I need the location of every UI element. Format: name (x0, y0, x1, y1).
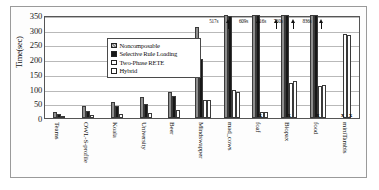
bar (347, 35, 351, 118)
bar (322, 85, 326, 118)
bar-groups (45, 17, 359, 118)
bar (61, 116, 65, 118)
chart-figure: 350300250200150100500 Time(sec) 517s609s… (0, 0, 379, 190)
bar (264, 112, 268, 118)
plot-area: 517s609s416s760s836s xxxxx Noncomposable… (44, 16, 360, 119)
bar-value-annotation: 836s (302, 18, 311, 24)
legend-label: Two-Phase RETE (120, 59, 165, 66)
missing-data-x-marker: x (259, 112, 262, 118)
bar-group (74, 17, 103, 118)
y-tick-label: 350 (16, 12, 42, 20)
missing-data-x-marker: x (349, 112, 352, 118)
x-tick-label: OWL-S-profile (82, 122, 90, 163)
bar (236, 92, 240, 118)
y-axis-label-wrap: Time(sec) (16, 22, 28, 122)
legend-label: Selective Rule Loading (120, 50, 178, 57)
bar-group (246, 17, 275, 118)
x-tick-label: food (312, 122, 320, 134)
bar-group (275, 17, 304, 118)
missing-data-x-marker: x (316, 112, 319, 118)
bar (148, 113, 152, 118)
x-tick-label: University (140, 122, 148, 150)
legend-label: Noncomposable (120, 42, 160, 49)
legend-swatch (111, 68, 117, 74)
bar (293, 81, 297, 118)
x-tick-label: Beer (168, 122, 176, 134)
missing-data-x-marker: x (341, 112, 344, 118)
missing-data-x-marker: x (288, 112, 291, 118)
bar (90, 115, 94, 118)
legend-swatch (111, 60, 117, 66)
bar-group (45, 17, 74, 118)
x-tick-label: Koala (111, 122, 119, 138)
bar-value-annotation: 517s (209, 18, 218, 24)
bar (207, 100, 211, 118)
legend-swatch (111, 43, 117, 49)
legend-item: Two-Phase RETE (111, 58, 197, 67)
x-tick-label: foaf (254, 122, 262, 132)
bar-group (217, 17, 246, 118)
legend-item: Selective Rule Loading (111, 50, 197, 59)
x-tick-label: miniTambis (341, 122, 349, 153)
bar (176, 110, 180, 118)
x-tick-label: Biopax (283, 122, 291, 141)
bar-value-annotation: 760s (274, 18, 283, 24)
x-tick-label: Mindswapper (197, 122, 205, 158)
bar (256, 15, 260, 118)
legend-item: Noncomposable (111, 41, 197, 50)
x-tick-label: mad_cows (226, 122, 234, 150)
bar-value-annotation: 609s (239, 18, 248, 24)
bar (119, 114, 123, 118)
legend-label: Hybrid (120, 67, 137, 74)
x-axis-labels: TeamsOWL-S-profileKoalaUniversityBeerMin… (44, 120, 360, 180)
legend-swatch (111, 51, 117, 57)
x-tick-label: Teams (53, 122, 61, 139)
legend-item: Hybrid (111, 67, 197, 76)
bar-group (332, 17, 361, 118)
bar-value-annotation: 416s (257, 18, 266, 24)
y-axis-label: Time(sec) (14, 37, 24, 68)
bar-group (304, 17, 333, 118)
chart-legend: NoncomposableSelective Rule LoadingTwo-P… (107, 38, 201, 78)
